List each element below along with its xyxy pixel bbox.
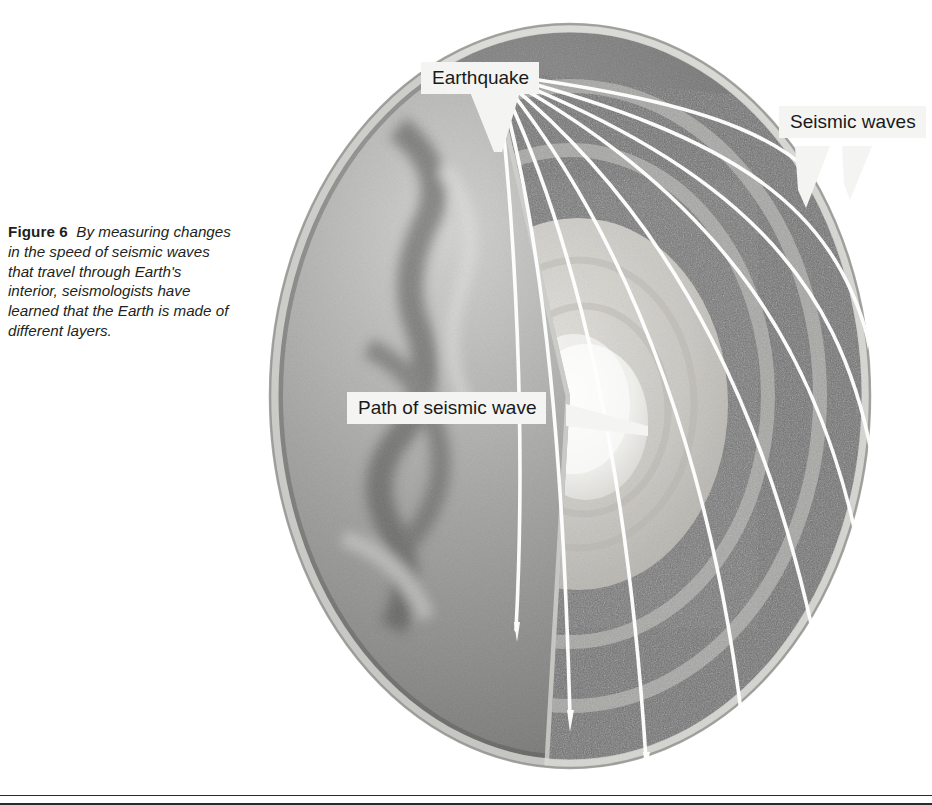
label-seismic-waves: Seismic waves xyxy=(779,106,926,138)
page-divider-rule xyxy=(0,795,932,796)
figure-number: Figure 6 xyxy=(8,223,68,240)
figure-caption: Figure 6 By measuring changes in the spe… xyxy=(8,222,233,341)
label-path-of-seismic-wave: Path of seismic wave xyxy=(347,392,546,424)
label-earthquake-text: Earthquake xyxy=(432,67,529,88)
label-seismic-waves-text: Seismic waves xyxy=(790,111,916,132)
label-path-text: Path of seismic wave xyxy=(358,397,536,418)
label-earthquake: Earthquake xyxy=(421,62,539,94)
figure-container: Figure 6 By measuring changes in the spe… xyxy=(0,0,932,805)
figure-caption-text: By measuring changes in the speed of sei… xyxy=(8,223,231,339)
